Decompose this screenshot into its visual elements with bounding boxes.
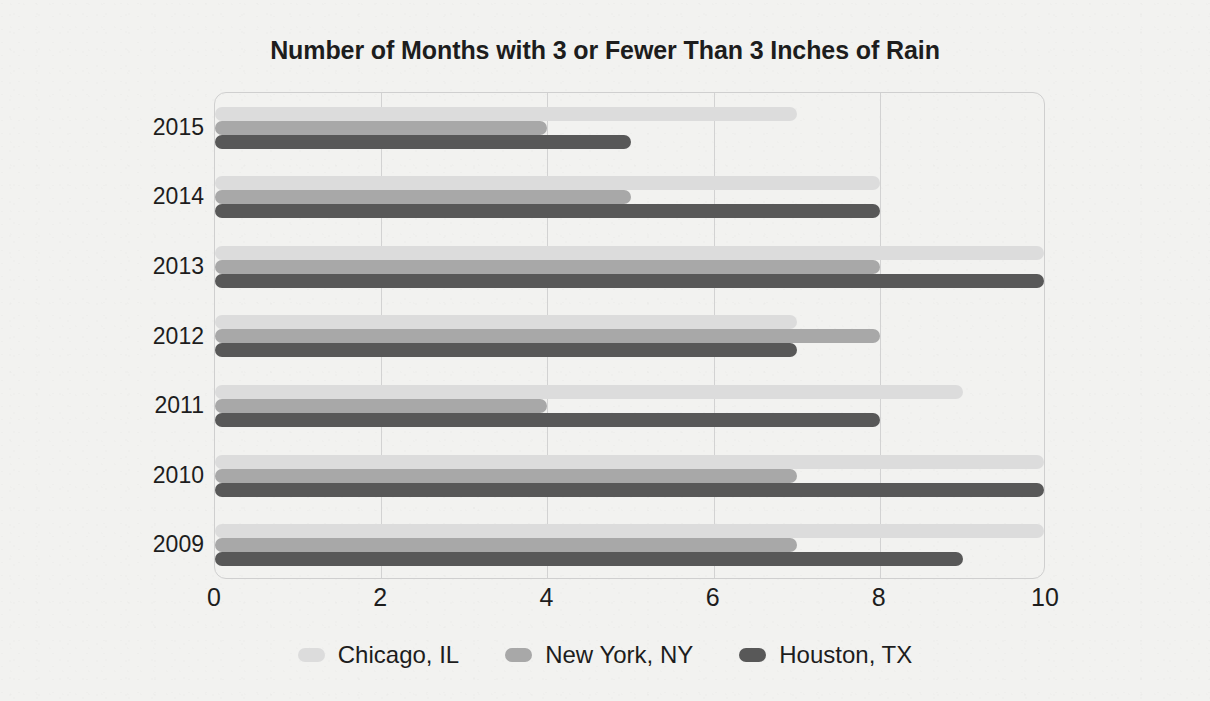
bar-group	[215, 232, 1044, 302]
legend-label: New York, NY	[545, 641, 693, 669]
bar-row	[215, 552, 1044, 566]
bar	[215, 385, 963, 399]
y-tick-label: 2015	[153, 113, 204, 140]
bar-row	[215, 190, 1044, 204]
bar-row	[215, 260, 1044, 274]
bar	[215, 260, 880, 274]
y-axis: 2015201420132012201120102009	[100, 92, 204, 579]
legend-label: Houston, TX	[779, 641, 912, 669]
bar-row	[215, 538, 1044, 552]
bar-row	[215, 524, 1044, 538]
bar-row	[215, 329, 1044, 343]
bar-chart: Number of Months with 3 or Fewer Than 3 …	[0, 0, 1210, 701]
legend-swatch-icon	[739, 648, 766, 662]
bar	[215, 190, 631, 204]
bar-row	[215, 385, 1044, 399]
bar-row	[215, 413, 1044, 427]
plot-area	[214, 92, 1045, 579]
bar	[215, 343, 797, 357]
bar-row	[215, 204, 1044, 218]
bar-row	[215, 274, 1044, 288]
legend-label: Chicago, IL	[338, 641, 459, 669]
bar-group	[215, 93, 1044, 163]
bar-row	[215, 469, 1044, 483]
bar-row	[215, 343, 1044, 357]
bar-group	[215, 371, 1044, 441]
legend-swatch-icon	[505, 648, 532, 662]
bar	[215, 469, 797, 483]
bar-row	[215, 176, 1044, 190]
chart-title: Number of Months with 3 or Fewer Than 3 …	[0, 36, 1210, 65]
x-tick-label: 10	[1031, 583, 1059, 612]
x-tick-label: 8	[872, 583, 886, 612]
bar-row	[215, 107, 1044, 121]
bar-row	[215, 315, 1044, 329]
bar	[215, 176, 880, 190]
bar-row	[215, 246, 1044, 260]
bar	[215, 204, 880, 218]
bar	[215, 135, 631, 149]
bar-group	[215, 510, 1044, 580]
x-tick-label: 2	[373, 583, 387, 612]
bar-row	[215, 455, 1044, 469]
bar-group	[215, 441, 1044, 511]
x-tick-label: 6	[706, 583, 720, 612]
legend-item[interactable]: Chicago, IL	[298, 641, 459, 669]
legend-item[interactable]: Houston, TX	[739, 641, 912, 669]
bar	[215, 121, 547, 135]
bar	[215, 315, 797, 329]
bar-group	[215, 163, 1044, 233]
y-tick-label: 2010	[153, 461, 204, 488]
bar	[215, 524, 1044, 538]
bar	[215, 107, 797, 121]
bar	[215, 399, 547, 413]
legend-item[interactable]: New York, NY	[505, 641, 693, 669]
legend-swatch-icon	[298, 648, 325, 662]
bar-row	[215, 135, 1044, 149]
bar	[215, 552, 963, 566]
bar	[215, 538, 797, 552]
bars-layer	[215, 93, 1044, 578]
bar	[215, 413, 880, 427]
x-axis: 0246810	[214, 583, 1045, 623]
y-tick-label: 2013	[153, 252, 204, 279]
bar-row	[215, 399, 1044, 413]
x-tick-label: 4	[539, 583, 553, 612]
chart-legend: Chicago, ILNew York, NYHouston, TX	[0, 641, 1210, 669]
bar-group	[215, 302, 1044, 372]
bar	[215, 246, 1044, 260]
y-tick-label: 2011	[155, 392, 204, 419]
x-tick-label: 0	[207, 583, 221, 612]
y-tick-label: 2009	[153, 531, 204, 558]
bar-row	[215, 121, 1044, 135]
bar	[215, 455, 1044, 469]
y-tick-label: 2014	[153, 183, 204, 210]
bar	[215, 274, 1044, 288]
bar	[215, 483, 1044, 497]
bar	[215, 329, 880, 343]
bar-row	[215, 483, 1044, 497]
y-tick-label: 2012	[153, 322, 204, 349]
